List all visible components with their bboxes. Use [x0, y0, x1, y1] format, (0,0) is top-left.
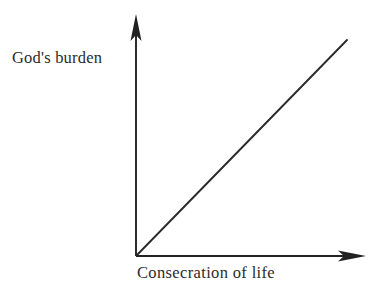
- plot-area: [0, 0, 383, 301]
- chart-figure: y God's burden Consecration of life: [0, 0, 383, 301]
- x-axis-label: Consecration of life: [137, 263, 275, 283]
- y-axis-label: God's burden: [12, 48, 102, 68]
- data-line-series-1: [137, 40, 347, 255]
